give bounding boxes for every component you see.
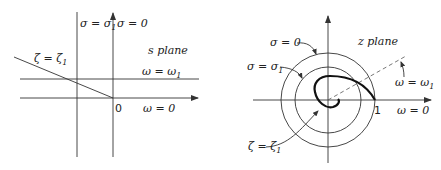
z-plane-title: z plane (357, 35, 398, 48)
label-omega-omega1: ω = ω1 (142, 65, 181, 80)
label-origin: 0 (115, 102, 122, 115)
label-sigma-zero: σ = 0 (117, 17, 148, 30)
z-plane: z plane σ = 0 σ = σ1 ω = ω1 1 ω = 0 ζ = … (247, 16, 434, 163)
s-plane: σ = σ1 σ = 0 s plane ζ = ζ1 ω = ω1 0 ω =… (14, 12, 199, 157)
s-plane-title: s plane (148, 44, 188, 57)
label-z-omega-omega1: ω = ω1 (395, 76, 434, 91)
label-omega-zero: ω = 0 (143, 102, 175, 115)
label-z-sigma-sigma1: σ = σ1 (247, 60, 283, 75)
s-to-z-plane-mapping-diagram: σ = σ1 σ = 0 s plane ζ = ζ1 ω = ω1 0 ω =… (0, 0, 441, 170)
label-z-zeta-zeta1: ζ = ζ1 (248, 140, 281, 155)
label-zeta-zeta1: ζ = ζ1 (34, 52, 67, 67)
label-unit-one: 1 (374, 104, 381, 117)
label-z-omega-zero: ω = 0 (397, 104, 429, 117)
label-sigma-sigma1: σ = σ1 (80, 17, 116, 32)
label-z-sigma-zero: σ = 0 (270, 36, 301, 49)
leader-omega-omega1 (401, 62, 404, 77)
zeta-zeta1-spiral (315, 76, 375, 107)
